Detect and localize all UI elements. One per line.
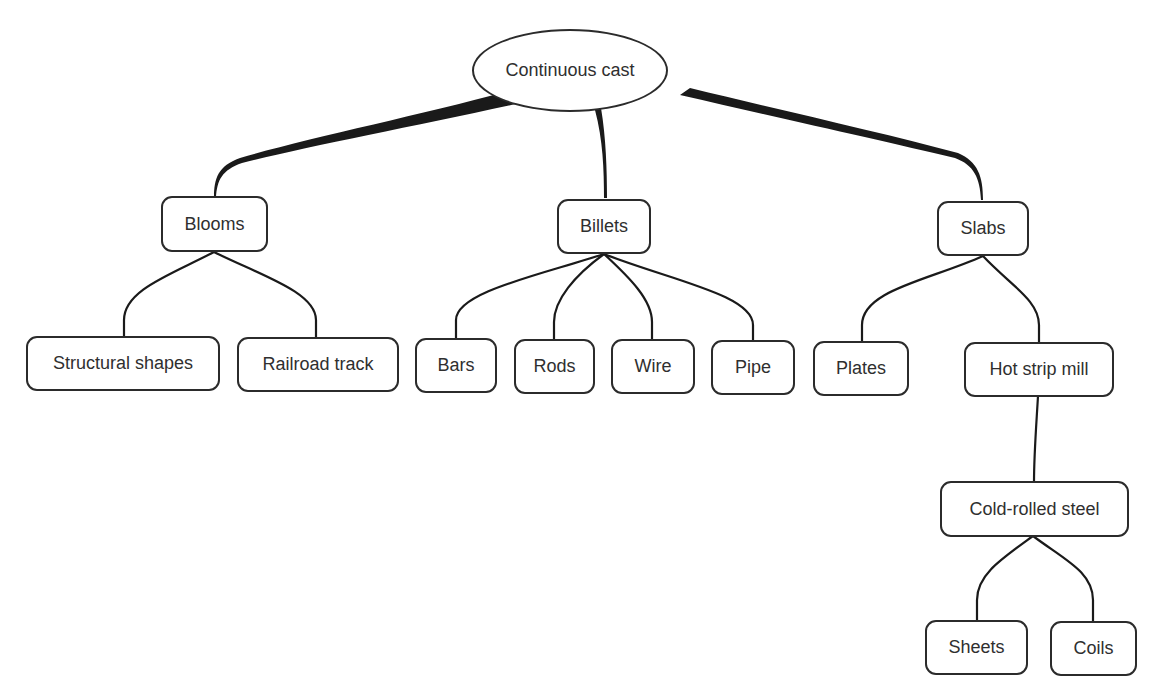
- node-label: Wire: [635, 356, 672, 377]
- connector-billets-bars: [456, 254, 604, 338]
- connector-hotstrip-coldrolled: [1034, 396, 1038, 482]
- node-label: Structural shapes: [53, 353, 193, 374]
- node-hot-strip-mill: Hot strip mill: [964, 342, 1114, 397]
- connector-billets-pipe: [604, 254, 753, 340]
- node-label: Cold-rolled steel: [969, 499, 1099, 520]
- node-wire: Wire: [611, 339, 695, 394]
- node-plates: Plates: [813, 341, 909, 396]
- connector-blooms-structural: [124, 252, 214, 336]
- node-railroad-track: Railroad track: [237, 337, 399, 392]
- node-label: Coils: [1073, 638, 1113, 659]
- node-sheets: Sheets: [925, 620, 1028, 675]
- process-tree-diagram: Continuous cast Blooms Billets Slabs Str…: [0, 0, 1159, 697]
- node-label: Blooms: [184, 214, 244, 235]
- node-coils: Coils: [1050, 621, 1137, 676]
- connector-billets-wire: [604, 254, 652, 339]
- connector-coldrolled-coils: [1033, 536, 1093, 621]
- node-label: Plates: [836, 358, 886, 379]
- node-label: Bars: [437, 355, 474, 376]
- node-bars: Bars: [415, 338, 497, 393]
- node-slabs: Slabs: [937, 201, 1029, 256]
- connector-slabs-plates: [862, 256, 983, 341]
- node-cold-rolled-steel: Cold-rolled steel: [940, 481, 1129, 537]
- connector-slabs-hotstrip: [983, 256, 1039, 342]
- connector-root-blooms: [214, 92, 525, 198]
- connector-coldrolled-sheets: [977, 536, 1033, 620]
- connector-root-billets: [595, 108, 607, 198]
- node-label: Slabs: [960, 218, 1005, 239]
- node-billets: Billets: [557, 199, 651, 254]
- node-rods: Rods: [514, 339, 595, 394]
- node-continuous-cast: Continuous cast: [472, 29, 668, 112]
- node-label: Railroad track: [262, 354, 373, 375]
- node-structural-shapes: Structural shapes: [26, 336, 220, 391]
- node-label: Rods: [533, 356, 575, 377]
- node-blooms: Blooms: [161, 196, 268, 252]
- node-label: Continuous cast: [505, 60, 634, 81]
- connector-root-slabs: [680, 88, 983, 200]
- node-label: Sheets: [948, 637, 1004, 658]
- node-pipe: Pipe: [711, 340, 795, 395]
- node-label: Hot strip mill: [989, 359, 1088, 380]
- connector-blooms-railroad: [214, 252, 316, 337]
- node-label: Billets: [580, 216, 628, 237]
- node-label: Pipe: [735, 357, 771, 378]
